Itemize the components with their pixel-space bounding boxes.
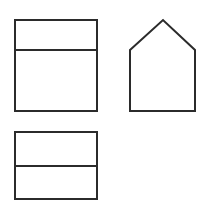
house-pentagon-shape bbox=[130, 20, 195, 111]
diagram-canvas bbox=[0, 0, 208, 214]
pentagon-outline bbox=[130, 20, 195, 111]
top-left-rectangle-outline bbox=[15, 20, 97, 111]
top-left-split-rectangle bbox=[15, 20, 97, 111]
bottom-left-split-rectangle bbox=[15, 132, 97, 199]
